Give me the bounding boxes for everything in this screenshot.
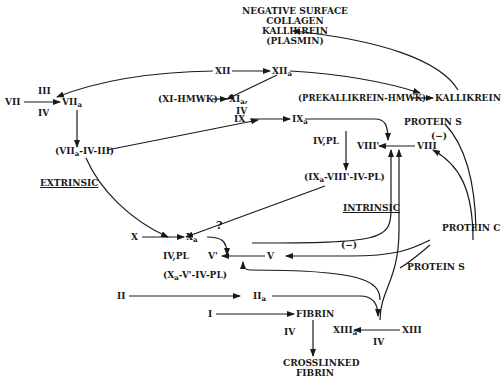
label-protein-s-bottom: PROTEIN S (407, 262, 465, 272)
node-xa: Xa (186, 232, 198, 245)
activator-plasmin: (PLASMIN) (240, 36, 350, 46)
activator-collagen: COLLAGEN (240, 16, 350, 26)
node-xiiia: XIIIa (333, 325, 357, 338)
node-x: X (131, 232, 138, 242)
arrow-thrombin-to-viii-1 (252, 150, 391, 243)
node-v-prime: V' (208, 251, 218, 261)
coagulation-cascade-diagram: NEGATIVE SURFACE COLLAGEN KALLIKREIN (PL… (0, 0, 501, 381)
activator-title-block: NEGATIVE SURFACE COLLAGEN KALLIKREIN (PL… (240, 6, 350, 46)
arrow-complex-to-ixa (107, 120, 258, 150)
node-xa-v-complex: (Xa-V'-IV-PL) (163, 270, 227, 283)
cofactor-iv-pl-top: IV,PL (313, 136, 339, 146)
arrow-ixa-complex-to-xa (186, 186, 325, 237)
cofactor-fibrin-iv: IV (284, 327, 295, 337)
node-ixa: IXa (292, 114, 308, 127)
cofactor-iii: III (38, 86, 51, 96)
cofactor-xiii-iv: IV (373, 337, 384, 347)
node-ii: II (117, 291, 125, 301)
label-extrinsic: EXTRINSIC (40, 178, 98, 188)
activator-negative-surface: NEGATIVE SURFACE (240, 6, 350, 16)
inhibition-viii: (−) (431, 131, 447, 141)
node-viii: VIII (417, 141, 437, 151)
node-prekallikrein-hmwk: (PREKALLIKREIN-HMWK) (298, 93, 426, 103)
node-xii: XII (215, 66, 230, 76)
cofactor-iv-pl-bottom: IV,PL (163, 251, 189, 261)
arrow-xiia-to-prekallikrein (290, 71, 420, 93)
arrow-layer (0, 0, 501, 381)
arrow-viia-complex-to-xa (86, 158, 168, 237)
node-ix: IX (234, 114, 245, 124)
node-fibrin: FIBRIN (296, 309, 334, 319)
inhibition-v: (−) (341, 240, 357, 250)
cofactor-iv: IV (38, 108, 49, 118)
node-xiii: XIII (402, 325, 422, 335)
label-intrinsic: INTRINSIC (343, 203, 400, 213)
activator-kallikrein: KALLIKREIN (240, 26, 350, 36)
node-xiia: XIIa (272, 66, 292, 79)
node-viia: VIIa (62, 97, 82, 110)
node-crosslinked-fibrin: CROSSLINKED FIBRIN (283, 358, 347, 378)
node-v: V (267, 251, 274, 261)
node-i: I (208, 309, 212, 319)
label-protein-s-top: PROTEIN S (404, 117, 462, 127)
node-viia-iv-iii-complex: (VIIa-IV-III) (55, 146, 114, 159)
node-viii-prime: VIII' (357, 141, 379, 151)
label-protein-c: PROTEIN C (442, 223, 500, 233)
node-kallikrein: KALLIKREIN (435, 93, 501, 103)
node-vii: VII (5, 97, 20, 107)
node-iia: IIa (253, 291, 266, 304)
node-xi-hmwk: (XI-HMWK) (158, 94, 218, 104)
label-question-mark: ? (216, 221, 222, 231)
node-ixa-viii-complex: (IXa-VIII'-IV-PL) (304, 172, 385, 185)
